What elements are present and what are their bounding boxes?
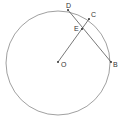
geometry-diagram: D C E O B xyxy=(0,0,128,120)
label-e: E xyxy=(74,25,79,32)
chord-db xyxy=(68,10,111,62)
label-o: O xyxy=(61,61,67,68)
point-b xyxy=(110,61,112,63)
point-c xyxy=(88,18,90,20)
label-d: D xyxy=(66,2,71,9)
point-e xyxy=(81,28,83,30)
label-c: C xyxy=(91,11,96,18)
point-o xyxy=(57,61,59,63)
label-b: B xyxy=(113,61,118,68)
diagram-svg: D C E O B xyxy=(0,0,128,120)
point-d xyxy=(67,9,69,11)
